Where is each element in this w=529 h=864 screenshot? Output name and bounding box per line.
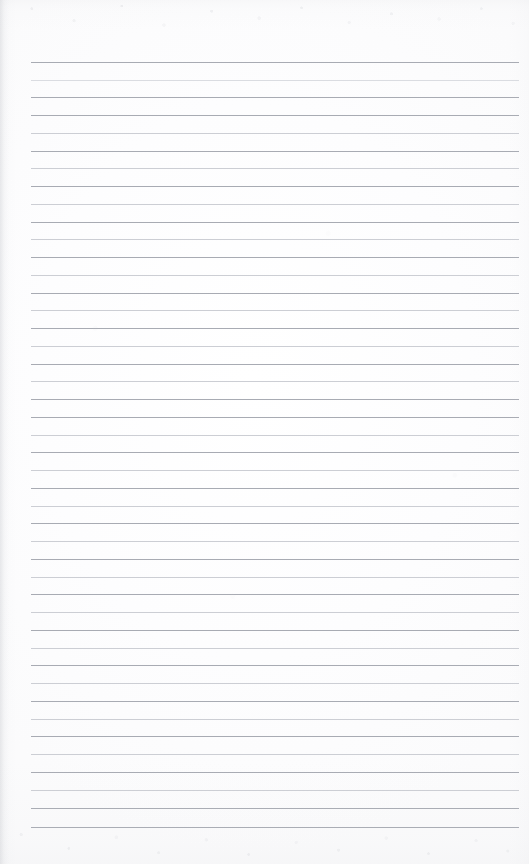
rule-line <box>31 381 519 382</box>
rule-line <box>31 665 519 666</box>
rule-line <box>31 683 519 684</box>
rule-line <box>31 648 519 649</box>
rule-line <box>31 541 519 542</box>
rule-line <box>31 754 519 755</box>
rule-line <box>31 115 519 116</box>
rule-line <box>31 417 519 418</box>
rule-line <box>31 275 519 276</box>
rule-line <box>31 97 519 98</box>
rule-line <box>31 151 519 152</box>
rule-line <box>31 399 519 400</box>
rule-line <box>31 790 519 791</box>
rule-line <box>31 328 519 329</box>
rule-line <box>31 559 519 560</box>
rule-line <box>31 594 519 595</box>
rule-line <box>31 346 519 347</box>
rule-line <box>31 506 519 507</box>
rule-line <box>31 719 519 720</box>
rule-line <box>31 293 519 294</box>
rule-line <box>31 133 519 134</box>
rule-line <box>31 630 519 631</box>
rule-line <box>31 808 519 809</box>
rule-line <box>31 577 519 578</box>
rule-line <box>31 435 519 436</box>
rule-line <box>31 364 519 365</box>
rule-line <box>31 168 519 169</box>
rule-line <box>31 204 519 205</box>
rule-line <box>31 62 519 63</box>
rule-line <box>31 772 519 773</box>
notebook-page <box>0 0 529 864</box>
rule-line <box>31 523 519 524</box>
rule-line <box>31 701 519 702</box>
rule-line <box>31 470 519 471</box>
ruled-lines-layer <box>0 0 529 864</box>
rule-line <box>31 186 519 187</box>
rule-line <box>31 222 519 223</box>
rule-line <box>31 257 519 258</box>
rule-line <box>31 80 519 81</box>
rule-line <box>31 310 519 311</box>
rule-line <box>31 452 519 453</box>
rule-line <box>31 612 519 613</box>
rule-line <box>31 827 519 828</box>
rule-line <box>31 736 519 737</box>
rule-line <box>31 488 519 489</box>
rule-line <box>31 239 519 240</box>
